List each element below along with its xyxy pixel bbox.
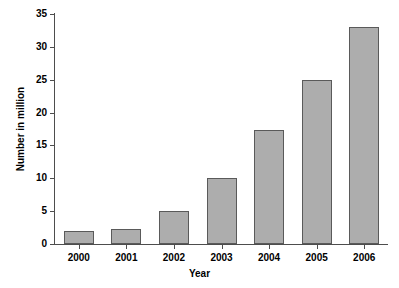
y-tick-label: 15 bbox=[7, 140, 47, 150]
plot-area bbox=[55, 14, 388, 244]
x-tick-label: 2001 bbox=[102, 252, 150, 263]
x-axis-title: Year bbox=[0, 268, 399, 279]
x-tick-label: 2005 bbox=[293, 252, 341, 263]
x-tick-label: 2002 bbox=[150, 252, 198, 263]
y-tick-label: 5 bbox=[7, 206, 47, 216]
bar-2000 bbox=[64, 231, 94, 244]
x-tick-mark bbox=[269, 245, 270, 249]
y-tick-mark bbox=[50, 244, 55, 245]
x-tick-mark bbox=[174, 245, 175, 249]
y-tick-label: 0 bbox=[7, 239, 47, 249]
x-tick-mark bbox=[222, 245, 223, 249]
x-tick-label: 2004 bbox=[245, 252, 293, 263]
y-tick-label: 25 bbox=[7, 75, 47, 85]
x-tick-label: 2003 bbox=[198, 252, 246, 263]
x-tick-mark bbox=[126, 245, 127, 249]
x-tick-mark bbox=[364, 245, 365, 249]
y-tick-label: 35 bbox=[7, 9, 47, 19]
y-tick-label: 20 bbox=[7, 108, 47, 118]
x-tick-label: 2000 bbox=[55, 252, 103, 263]
bar-2006 bbox=[349, 27, 379, 244]
bar-2001 bbox=[111, 229, 141, 244]
bar-2004 bbox=[254, 130, 284, 244]
x-tick-label: 2006 bbox=[340, 252, 388, 263]
x-tick-mark bbox=[317, 245, 318, 249]
bar-2005 bbox=[302, 80, 332, 244]
bar-2003 bbox=[207, 178, 237, 244]
x-tick-mark bbox=[79, 245, 80, 249]
bar-2002 bbox=[159, 211, 189, 244]
bar-chart-figure: Number in million 05101520253035 2000200… bbox=[0, 0, 399, 288]
y-tick-label: 10 bbox=[7, 173, 47, 183]
y-tick-label: 30 bbox=[7, 42, 47, 52]
